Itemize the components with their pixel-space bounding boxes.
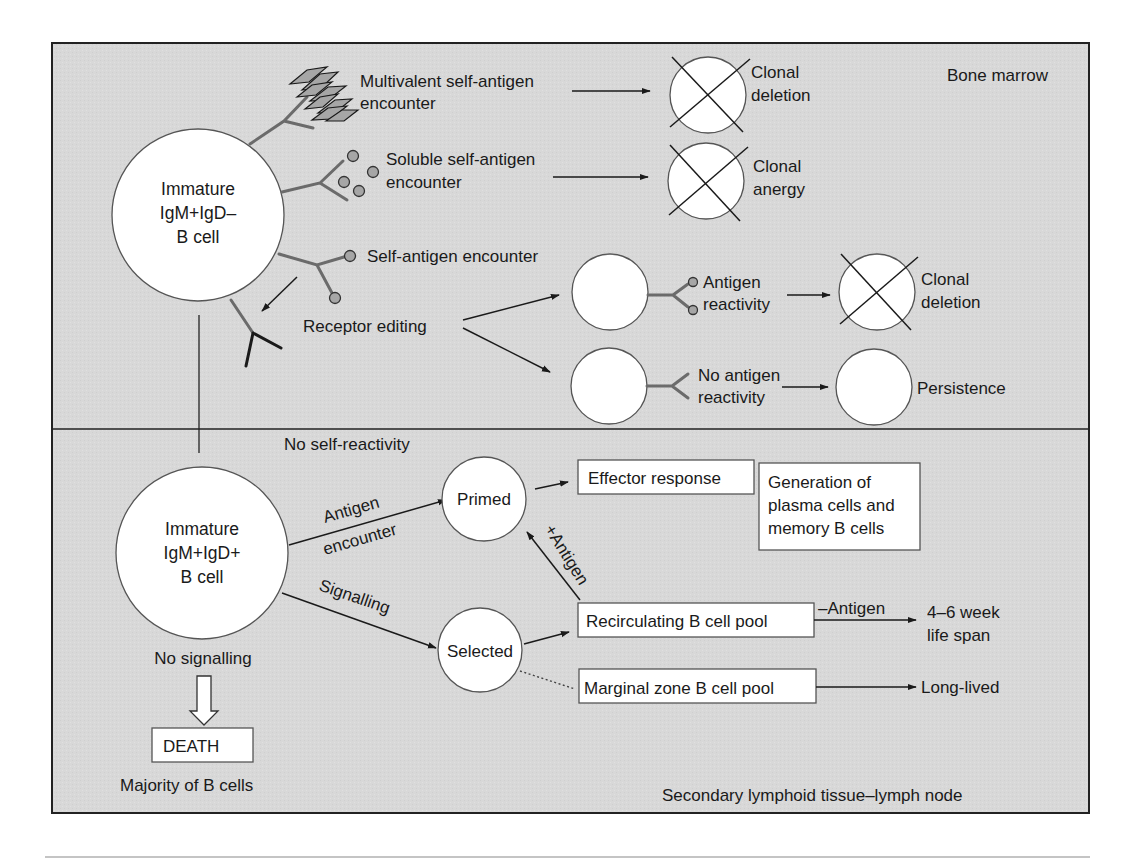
minus-antigen-label: –Antigen xyxy=(818,599,885,618)
clonal-deletion-label-2b: deletion xyxy=(921,293,981,312)
clonal-deletion-label-1b: deletion xyxy=(751,86,811,105)
recirculating-pool-box: Recirculating B cell pool xyxy=(578,603,814,637)
svg-text:Immature: Immature xyxy=(161,179,235,199)
no-antigen-reactivity-label-2: reactivity xyxy=(698,388,766,407)
svg-text:DEATH: DEATH xyxy=(163,737,219,756)
life-span-label-2: life span xyxy=(927,626,990,645)
generation-box: Generation of plasma cells and memory B … xyxy=(759,463,920,550)
clonal-deletion-label-1: Clonal xyxy=(751,63,799,82)
svg-text:Selected: Selected xyxy=(447,642,513,661)
antigen-reactivity-label-2: reactivity xyxy=(703,295,771,314)
clonal-anergy-label-2: anergy xyxy=(753,180,805,199)
selected-cell: Selected xyxy=(438,608,522,692)
svg-text:IgM+IgD–: IgM+IgD– xyxy=(160,203,237,223)
svg-text:Marginal zone B cell pool: Marginal zone B cell pool xyxy=(584,679,774,698)
self-antigen-label: Self-antigen encounter xyxy=(367,247,538,266)
antigen-reactivity-label: Antigen xyxy=(703,273,761,292)
svg-text:Effector response: Effector response xyxy=(588,469,721,488)
svg-text:plasma cells and: plasma cells and xyxy=(768,496,895,515)
svg-text:Primed: Primed xyxy=(457,490,511,509)
svg-text:memory B cells: memory B cells xyxy=(768,519,884,538)
svg-text:Recirculating B cell pool: Recirculating B cell pool xyxy=(586,612,767,631)
majority-label: Majority of B cells xyxy=(120,776,253,795)
persistence-cell xyxy=(836,349,912,425)
svg-text:Generation of: Generation of xyxy=(768,473,871,492)
svg-text:B cell: B cell xyxy=(177,227,220,247)
life-span-label: 4–6 week xyxy=(927,603,1000,622)
immature-igm-igd-pos-cell: Immature IgM+IgD+ B cell xyxy=(116,467,288,639)
soluble-label: Soluble self-antigen xyxy=(386,150,535,169)
soluble-label-2: encounter xyxy=(386,173,462,192)
immature-igm-igd-neg-cell: Immature IgM+IgD– B cell xyxy=(112,129,284,301)
long-lived-label: Long-lived xyxy=(921,678,999,697)
marginal-zone-pool-box: Marginal zone B cell pool xyxy=(579,669,816,703)
multivalent-label: Multivalent self-antigen xyxy=(360,72,534,91)
clonal-deletion-label-2: Clonal xyxy=(921,270,969,289)
no-signalling-label: No signalling xyxy=(154,649,251,668)
clonal-anergy-label: Clonal xyxy=(753,157,801,176)
b-cell-tolerance-diagram: Bone marrow Secondary lymphoid tissue–ly… xyxy=(0,0,1133,860)
no-self-reactivity-label: No self-reactivity xyxy=(284,435,410,454)
receptor-editing-label: Receptor editing xyxy=(303,317,427,336)
effector-response-box: Effector response xyxy=(578,460,754,494)
multivalent-label-2: encounter xyxy=(360,94,436,113)
death-box: DEATH xyxy=(152,728,253,762)
lymph-node-label: Secondary lymphoid tissue–lymph node xyxy=(662,786,963,805)
persistence-label: Persistence xyxy=(917,379,1006,398)
no-antigen-reactivity-label: No antigen xyxy=(698,366,780,385)
bone-marrow-label: Bone marrow xyxy=(947,66,1049,85)
svg-text:B cell: B cell xyxy=(181,567,224,587)
svg-text:Immature: Immature xyxy=(165,519,239,539)
primed-cell: Primed xyxy=(442,457,526,541)
svg-text:IgM+IgD+: IgM+IgD+ xyxy=(164,543,241,563)
